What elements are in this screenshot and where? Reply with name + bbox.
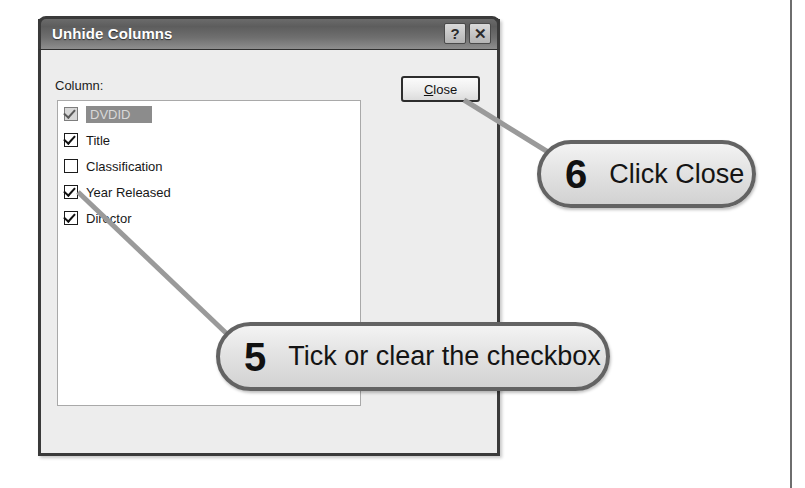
checkbox-checked-icon[interactable]: [64, 185, 78, 199]
close-button-accelerator: C: [424, 82, 433, 97]
close-button[interactable]: Close: [401, 76, 480, 102]
list-item[interactable]: Year Released: [58, 179, 360, 205]
callout-step-5-number: 5: [244, 337, 266, 377]
checkbox-unchecked-icon[interactable]: [64, 159, 78, 173]
callout-step-5-text: Tick or clear the checkbox: [288, 341, 601, 372]
list-item[interactable]: DVDID: [58, 101, 360, 127]
help-icon[interactable]: ?: [444, 23, 466, 44]
list-item[interactable]: Classification: [58, 153, 360, 179]
list-item-label: Title: [86, 133, 110, 148]
dialog-client-area: Column: DVDIDTitleClassificationYear Rel…: [41, 50, 497, 453]
column-label: Column:: [55, 78, 103, 93]
page-margin-rule: [790, 0, 792, 488]
dialog-title: Unhide Columns: [52, 25, 173, 42]
checkbox-checked-icon[interactable]: [64, 107, 78, 121]
close-icon[interactable]: ✕: [469, 23, 491, 44]
list-item-label: Year Released: [86, 185, 171, 200]
checkbox-checked-icon[interactable]: [64, 133, 78, 147]
list-item[interactable]: Title: [58, 127, 360, 153]
callout-step-6-text: Click Close: [609, 159, 744, 190]
list-item-label: DVDID: [86, 106, 152, 123]
callout-step-5: 5 Tick or clear the checkbox: [216, 322, 610, 391]
close-button-label: lose: [433, 82, 457, 97]
list-item-label: Classification: [86, 159, 163, 174]
list-item[interactable]: Director: [58, 205, 360, 231]
callout-step-6: 6 Click Close: [537, 140, 756, 208]
list-item-label: Director: [86, 211, 132, 226]
callout-step-6-number: 6: [565, 154, 587, 194]
checkbox-checked-icon[interactable]: [64, 211, 78, 225]
dialog-titlebar[interactable]: Unhide Columns ? ✕: [38, 16, 500, 50]
